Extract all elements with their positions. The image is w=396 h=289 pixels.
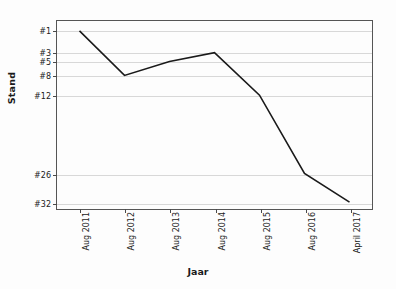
y-tick-label: #26 [34, 171, 51, 180]
x-tick-label: Aug 2011 [82, 212, 91, 251]
y-tick-label: #8 [39, 72, 51, 81]
x-tick-label: Aug 2015 [263, 212, 272, 251]
y-tick-label: #32 [34, 200, 51, 209]
y-tick-label: #5 [39, 58, 51, 67]
x-tick-label: Aug 2013 [172, 212, 181, 251]
line-chart: Stand #1#3#5#8#12#26#32 Aug 2011Aug 2012… [0, 0, 396, 289]
x-tick-mark [125, 209, 126, 213]
x-axis-title: Jaar [0, 266, 396, 277]
y-axis-title: Stand [6, 48, 17, 128]
y-tick-label: #1 [39, 27, 51, 36]
plot-area: #1#3#5#8#12#26#32 [56, 20, 373, 210]
x-tick-mark [80, 209, 81, 213]
x-tick-mark [261, 209, 262, 213]
x-tick-mark [216, 209, 217, 213]
x-tick-label: April 2017 [353, 212, 362, 253]
x-tick-label: Aug 2016 [308, 212, 317, 251]
series-line-stand [79, 31, 349, 202]
x-tick-label: Aug 2012 [127, 212, 136, 251]
x-tick-mark [306, 209, 307, 213]
x-tick-label: Aug 2014 [218, 212, 227, 251]
series-layer [57, 21, 372, 209]
y-tick-label: #3 [39, 49, 51, 58]
y-tick-label: #12 [34, 92, 51, 101]
